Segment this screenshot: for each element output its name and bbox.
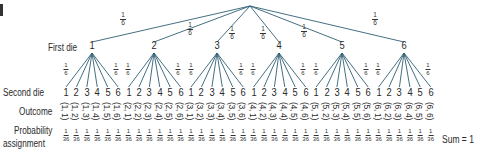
- second-die-value: 5: [168, 86, 173, 98]
- second-die-value: 5: [418, 86, 423, 98]
- outcome-pair: (4, 1): [248, 102, 258, 120]
- branch-line: [92, 6, 250, 42]
- outcome-pair: (1, 5): [102, 102, 112, 120]
- sum-label: Sum = 1: [442, 134, 474, 145]
- outcome-probability: 136: [375, 128, 382, 142]
- outcome-pair: (6, 6): [425, 102, 435, 120]
- outcome-probability: 136: [281, 128, 288, 142]
- outcome-pair: (5, 2): [321, 102, 331, 120]
- outcome-pair: (4, 4): [279, 102, 289, 120]
- outcome-probability: 136: [386, 128, 393, 142]
- first-die-probability: 16: [187, 22, 193, 36]
- outcome-probability: 136: [136, 128, 143, 142]
- first-die-node: 2: [151, 39, 156, 51]
- outcome-pair: (3, 1): [185, 102, 195, 120]
- outcome-pair: (4, 5): [289, 102, 299, 120]
- first-die-label: First die: [48, 42, 77, 53]
- outcome-pair: (6, 1): [373, 102, 383, 120]
- branch-line: [154, 6, 250, 42]
- second-die-probability: 16: [64, 62, 69, 76]
- second-die-probability: 16: [114, 62, 119, 76]
- first-die-probability: 16: [372, 12, 378, 26]
- second-die-value: 1: [188, 86, 193, 98]
- outcome-pair: (2, 4): [154, 102, 164, 120]
- first-die-probability: 16: [120, 12, 126, 26]
- second-die-value: 1: [251, 86, 256, 98]
- second-die-probability: 16: [364, 62, 369, 76]
- outcome-pair: (4, 2): [258, 102, 268, 120]
- outcome-probability: 136: [125, 128, 132, 142]
- outcome-pair: (1, 4): [91, 102, 101, 120]
- outcome-pair: (3, 4): [216, 102, 226, 120]
- second-die-value: 3: [147, 86, 152, 98]
- assignment-label: assignment: [3, 138, 45, 149]
- second-die-probability: 16: [176, 62, 181, 76]
- second-die-value: 3: [84, 86, 89, 98]
- outcome-pair: (2, 3): [143, 102, 153, 120]
- second-die-value: 4: [157, 86, 162, 98]
- outcome-pair: (3, 5): [227, 102, 237, 120]
- outcome-probability: 136: [365, 128, 372, 142]
- outcome-pair: (4, 6): [300, 102, 310, 120]
- outcome-probability: 136: [302, 128, 309, 142]
- outcome-label: Outcome: [19, 106, 52, 117]
- second-die-value: 6: [366, 86, 371, 98]
- outcome-probability: 136: [156, 128, 163, 142]
- first-die-node: 3: [214, 39, 219, 51]
- second-die-value: 5: [293, 86, 298, 98]
- second-die-value: 6: [241, 86, 246, 98]
- first-die-node: 1: [89, 39, 94, 51]
- outcome-pair: (1, 3): [81, 102, 91, 120]
- outcome-pair: (1, 1): [60, 102, 70, 120]
- second-die-value: 5: [355, 86, 360, 98]
- second-die-label: Second die: [3, 87, 44, 98]
- first-die-node: 5: [339, 39, 344, 51]
- outcome-probability: 136: [146, 128, 153, 142]
- second-die-value: 3: [209, 86, 214, 98]
- outcome-probability: 136: [354, 128, 361, 142]
- first-die-node: 4: [276, 39, 281, 51]
- second-die-probability: 16: [189, 62, 194, 76]
- second-die-value: 6: [178, 86, 183, 98]
- second-die-value: 1: [126, 86, 131, 98]
- second-die-value: 3: [397, 86, 402, 98]
- outcome-probability: 136: [188, 128, 195, 142]
- outcome-probability: 136: [407, 128, 414, 142]
- second-die-value: 1: [313, 86, 318, 98]
- outcome-probability: 136: [292, 128, 299, 142]
- second-die-value: 5: [230, 86, 235, 98]
- outcome-pair: (3, 6): [237, 102, 247, 120]
- outcome-probability: 136: [73, 128, 80, 142]
- first-die-node: 6: [401, 39, 406, 51]
- probability-tree-diagram: First die Second die Outcome Probability…: [0, 0, 487, 157]
- outcome-pair: (5, 4): [341, 102, 351, 120]
- outcome-pair: (3, 3): [206, 102, 216, 120]
- outcome-pair: (1, 6): [112, 102, 122, 120]
- second-die-value: 2: [74, 86, 79, 98]
- outcome-probability: 136: [167, 128, 174, 142]
- second-die-probability: 16: [314, 62, 319, 76]
- outcome-probability: 136: [219, 128, 226, 142]
- outcome-probability: 136: [104, 128, 111, 142]
- outcome-probability: 136: [271, 128, 278, 142]
- second-die-value: 4: [282, 86, 287, 98]
- second-die-value: 4: [95, 86, 100, 98]
- second-die-probability: 16: [239, 62, 244, 76]
- second-die-value: 2: [136, 86, 141, 98]
- outcome-pair: (6, 4): [404, 102, 414, 120]
- outcome-probability: 136: [344, 128, 351, 142]
- outcome-pair: (2, 1): [123, 102, 133, 120]
- outcome-pair: (2, 2): [133, 102, 143, 120]
- second-die-value: 2: [261, 86, 266, 98]
- outcome-probability: 136: [417, 128, 424, 142]
- outcome-probability: 136: [323, 128, 330, 142]
- second-die-value: 3: [272, 86, 277, 98]
- outcome-pair: (6, 2): [383, 102, 393, 120]
- outcome-probability: 136: [240, 128, 247, 142]
- second-die-probability: 16: [426, 62, 431, 76]
- outcome-probability: 136: [261, 128, 268, 142]
- second-die-probability: 16: [301, 62, 306, 76]
- outcome-pair: (5, 5): [352, 102, 362, 120]
- outcome-probability: 136: [250, 128, 257, 142]
- outcome-pair: (3, 2): [195, 102, 205, 120]
